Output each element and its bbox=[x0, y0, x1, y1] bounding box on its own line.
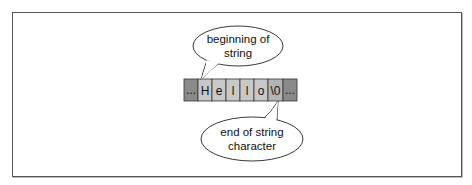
cell-label: ... bbox=[186, 83, 196, 97]
callout-text: end of string bbox=[220, 126, 283, 138]
cell-label: l bbox=[246, 84, 249, 98]
cell-label: l bbox=[232, 84, 235, 98]
cell-label: \0 bbox=[270, 84, 280, 98]
callout-end-of-string-character: end of string character bbox=[201, 101, 303, 161]
callout-text: string bbox=[224, 47, 252, 59]
cell-label: ... bbox=[285, 83, 295, 97]
cell-label: e bbox=[216, 84, 223, 98]
callout-text: character bbox=[228, 140, 276, 152]
cell-label: o bbox=[258, 84, 265, 98]
callout-beginning-of-string: beginning of string bbox=[193, 26, 283, 80]
char-array: ... H e l l o \0 ... bbox=[184, 79, 297, 101]
callout-text: beginning of bbox=[207, 33, 270, 45]
cell-label: H bbox=[201, 84, 210, 98]
string-diagram: ... H e l l o \0 ... beginning of string… bbox=[0, 0, 472, 185]
